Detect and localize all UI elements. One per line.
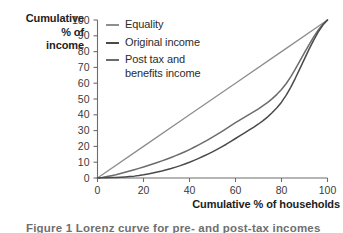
legend-item-label: Post tax and benefits income [125, 53, 201, 80]
y-tick-label: 50 [78, 93, 90, 105]
x-tick-label: 0 [95, 184, 101, 196]
legend-item[interactable]: Post tax and benefits income [106, 53, 236, 80]
legend-swatch-icon [106, 59, 119, 61]
legend-item-label: Equality [125, 18, 163, 32]
x-tick-label: 20 [138, 184, 150, 196]
x-tick-label: 80 [276, 184, 288, 196]
y-tick-label: 0 [84, 172, 90, 184]
lorenz-curve-figure: Cumulative % of income 01020304050607080… [0, 0, 343, 233]
legend-swatch-icon [106, 42, 119, 44]
legend-item-label: Original income [125, 36, 200, 50]
chart-legend: EqualityOriginal incomePost tax and bene… [106, 18, 236, 84]
x-tick-label: 40 [184, 184, 196, 196]
y-tick-label: 60 [78, 77, 90, 89]
y-tick-label: 90 [78, 29, 90, 41]
y-tick-label: 100 [72, 14, 90, 26]
legend-swatch-icon [106, 24, 119, 26]
figure-caption: Figure 1 Lorenz curve for pre- and post-… [26, 222, 336, 233]
y-tick-label: 20 [78, 140, 90, 152]
y-tick-label: 10 [78, 156, 90, 168]
y-tick-label: 30 [78, 124, 90, 136]
y-tick-label: 40 [78, 108, 90, 120]
y-tick-label-group: 0102030405060708090100 [72, 14, 90, 184]
y-tick-label: 80 [78, 45, 90, 57]
legend-item[interactable]: Original income [106, 36, 236, 50]
x-tick-label: 100 [319, 184, 337, 196]
x-axis-title: Cumulative % of households [150, 198, 340, 210]
y-tick-label: 70 [78, 61, 90, 73]
x-tick-label-group: 020406080100 [95, 184, 337, 196]
x-tick-label: 60 [230, 184, 242, 196]
legend-item[interactable]: Equality [106, 18, 236, 32]
